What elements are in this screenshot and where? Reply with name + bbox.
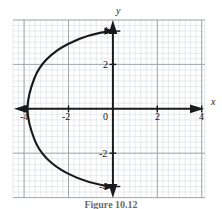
origin-label: 0: [103, 111, 108, 122]
x-tick-label-pos2: 2: [155, 111, 160, 122]
x-tick-label-neg2: -2: [62, 111, 70, 122]
y-tick-label-neg2: -2: [99, 148, 107, 159]
y-axis-label: y: [115, 5, 121, 16]
x-axis-label: x: [210, 96, 216, 107]
y-tick-label-pos4: 4: [103, 25, 108, 36]
y-tick-label-neg4: -4: [99, 181, 107, 192]
x-tick-label-pos4: 4: [199, 111, 204, 122]
x-tick-label-neg4: -4: [20, 111, 28, 122]
figure-caption: Figure 10.12: [0, 198, 222, 209]
coordinate-plane-graph: x y -4 -2 2 4 0 4 2 -2 -4: [0, 0, 222, 209]
y-tick-label-pos2: 2: [103, 59, 108, 70]
figure-container: x y -4 -2 2 4 0 4 2 -2 -4 Figure 10.12: [0, 0, 222, 209]
